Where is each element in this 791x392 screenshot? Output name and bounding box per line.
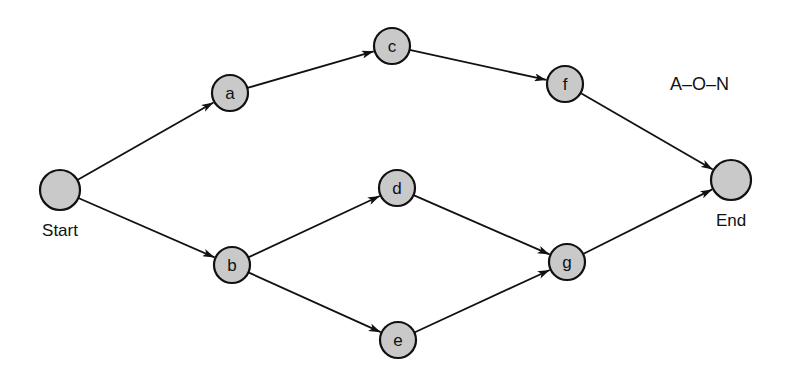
node-label: b	[227, 256, 236, 275]
aon-network-diagram: StartacfEndbdeg A–O–N	[0, 0, 791, 392]
node-label: d	[392, 179, 401, 198]
nodes: StartacfEndbdeg	[40, 28, 751, 358]
node-f: f	[547, 66, 583, 102]
edge-f-to-end	[581, 93, 713, 169]
node-label: c	[388, 37, 397, 56]
edge-d-to-g	[414, 195, 550, 254]
node-caption: Start	[42, 221, 78, 240]
node-d: d	[379, 170, 415, 206]
edge-a-to-c	[247, 51, 373, 88]
edge-start-to-b	[78, 198, 214, 257]
edge-e-to-g	[414, 270, 549, 332]
node-e: e	[380, 322, 416, 358]
node-caption: End	[716, 211, 746, 230]
node-g: g	[549, 244, 585, 280]
edge-g-to-end	[583, 189, 712, 254]
node-label: f	[563, 75, 568, 94]
edge-b-to-d	[248, 196, 379, 257]
node-label: g	[562, 253, 571, 272]
edge-start-to-a	[77, 102, 213, 180]
node-end: End	[711, 160, 751, 230]
node-b: b	[214, 247, 250, 283]
node-start: Start	[40, 170, 80, 240]
node-circle	[711, 160, 751, 200]
node-a: a	[212, 75, 248, 111]
node-label: e	[393, 331, 402, 350]
edge-b-to-e	[248, 272, 380, 332]
node-label: a	[225, 84, 235, 103]
edge-c-to-f	[410, 50, 547, 80]
node-c: c	[374, 28, 410, 64]
diagram-svg: StartacfEndbdeg A–O–N	[0, 0, 791, 392]
node-circle	[40, 170, 80, 210]
diagram-title: A–O–N	[670, 74, 729, 94]
